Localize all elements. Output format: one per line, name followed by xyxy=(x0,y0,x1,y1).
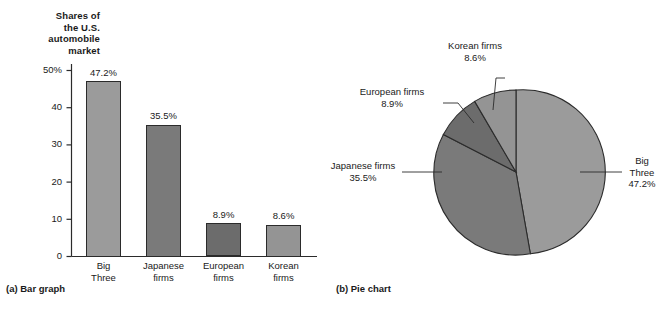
bar-korean-firms xyxy=(266,225,301,257)
bar-value-label-korean-firms: 8.6% xyxy=(258,211,309,221)
x-category-label-korean-firms: Korean firms xyxy=(256,260,311,283)
y-tick-label-20: 20 xyxy=(22,177,62,187)
bar-big-three xyxy=(86,81,121,257)
pie-chart-caption: (b) Pie chart xyxy=(336,283,391,294)
bar-chart-y-ticks xyxy=(67,71,72,257)
y-tick-label-40: 40 xyxy=(22,102,62,112)
bar-japanese-firms xyxy=(146,125,181,257)
y-tick-label-0: 0 xyxy=(22,251,62,261)
bar-value-label-japanese-firms: 35.5% xyxy=(138,111,189,121)
pie-chart-panel: Korean firms 8.6% European firms 8.9% Ja… xyxy=(330,0,653,311)
bar-value-label-european-firms: 8.9% xyxy=(198,210,249,220)
bar-european-firms xyxy=(206,223,241,256)
bar-graph-panel: Shares of the U.S. automobile market xyxy=(0,0,330,311)
y-tick-label-30: 30 xyxy=(22,139,62,149)
pie-label-european-firms: European firms 8.9% xyxy=(344,86,440,109)
bar-chart-plot-area: 50% 40 30 20 10 0 47.2% 35.5% 8.9% 8.6% … xyxy=(0,0,330,311)
bar-value-label-big-three: 47.2% xyxy=(78,68,129,78)
pie-label-big-three: Big Three 47.2% xyxy=(622,155,660,190)
x-category-label-european-firms: European firms xyxy=(194,260,253,283)
pie-label-japanese-firms: Japanese firms 35.5% xyxy=(324,160,402,183)
y-tick-label-50: 50% xyxy=(22,65,62,75)
y-tick-label-10: 10 xyxy=(22,214,62,224)
pie-label-korean-firms: Korean firms 8.6% xyxy=(430,40,520,63)
bar-graph-caption: (a) Bar graph xyxy=(6,283,65,294)
x-category-label-japanese-firms: Japanese firms xyxy=(134,260,193,283)
x-category-label-big-three: Big Three xyxy=(78,260,129,283)
